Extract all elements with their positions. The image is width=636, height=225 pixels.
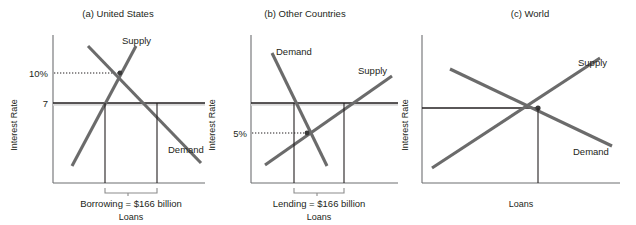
borrowing-bracket-label: Borrowing = $166 billion (80, 198, 182, 209)
panel-united-states: (a) United States Interest Rate 10% 7 Su… (9, 8, 205, 222)
x-axis-label-other-countries: Loans (307, 212, 332, 222)
demand-label-other-countries: Demand (276, 46, 312, 57)
tick-label-ten-percent: 10% (29, 68, 49, 79)
demand-label-united-states: Demand (168, 144, 204, 155)
y-axis-label-other-countries: Interest Rate (207, 99, 217, 151)
lending-bracket-other-countries (294, 188, 344, 196)
tick-label-five-percent: 5% (233, 128, 247, 139)
panel-world: (c) World Interest Rate Supply Demand Lo… (400, 8, 620, 209)
panel-title-united-states: (a) United States (82, 8, 154, 19)
demand-label-world: Demand (573, 146, 609, 157)
supply-label-world: Supply (578, 57, 607, 68)
panel-title-world: (c) World (511, 8, 549, 19)
supply-curve-other-countries (265, 76, 392, 165)
supply-label-united-states: Supply (122, 35, 151, 46)
panel-other-countries: (b) Other Countries Interest Rate 5% Dem… (207, 8, 398, 222)
y-axis-label-united-states: Interest Rate (9, 99, 19, 151)
x-axis-label-world: Loans (509, 199, 534, 209)
figure-canvas: (a) United States Interest Rate 10% 7 Su… (0, 0, 636, 225)
demand-curve-other-countries (272, 53, 327, 166)
x-axis-label-united-states: Loans (119, 212, 144, 222)
tick-label-seven: 7 (43, 98, 48, 109)
equilibrium-point-other-countries (305, 131, 310, 136)
lending-bracket-label: Lending = $166 billion (273, 198, 366, 209)
panel-title-other-countries: (b) Other Countries (264, 8, 346, 19)
equilibrium-point-united-states (118, 71, 123, 76)
loanable-funds-figure: (a) United States Interest Rate 10% 7 Su… (0, 0, 636, 225)
supply-label-other-countries: Supply (358, 65, 387, 76)
borrowing-bracket-united-states (105, 188, 157, 196)
y-axis-label-world: Interest Rate (400, 99, 410, 151)
